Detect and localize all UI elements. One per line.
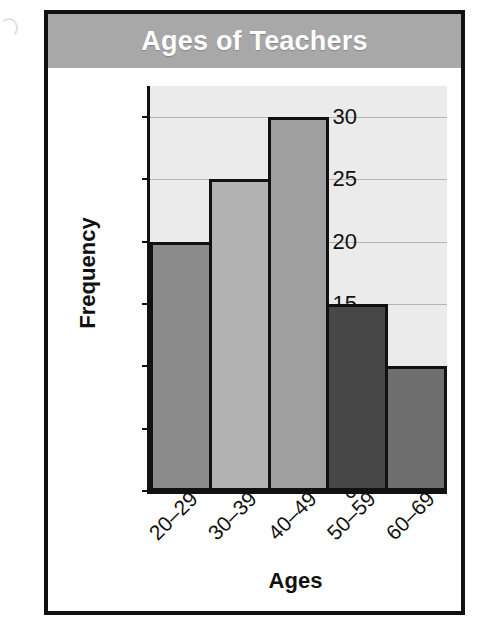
x-axis-tick-slot: 30–39 xyxy=(206,496,265,566)
page-edge-artifact xyxy=(0,18,18,38)
x-axis-title: Ages xyxy=(147,568,444,594)
y-axis-tick xyxy=(142,178,150,180)
x-axis-tick-slot: 40–49 xyxy=(266,496,325,566)
x-axis-tick-slot: 60–69 xyxy=(385,496,444,566)
bar-series xyxy=(150,86,447,491)
y-axis-tick xyxy=(142,365,150,367)
bar xyxy=(268,117,330,491)
plot-area xyxy=(147,86,447,494)
y-axis-tick xyxy=(142,241,150,243)
bar xyxy=(385,366,447,491)
chart-title: Ages of Teachers xyxy=(141,26,367,57)
x-axis-tick-slot: 20–29 xyxy=(147,496,206,566)
x-axis-tick-label: 20–29 xyxy=(144,487,202,545)
y-axis-tick xyxy=(142,116,150,118)
bar xyxy=(326,304,388,491)
y-axis-tick xyxy=(142,428,150,430)
chart-title-bar: Ages of Teachers xyxy=(48,14,461,68)
x-axis-tick-label: 60–69 xyxy=(382,487,440,545)
x-axis-tick-label: 40–49 xyxy=(263,487,321,545)
y-axis-tick xyxy=(142,490,150,492)
x-axis-tick-labels: 20–2930–3940–4950–5960–69 xyxy=(147,496,444,566)
chart-figure: Ages of Teachers Frequency 20–2930–3940–… xyxy=(44,10,465,615)
x-axis-tick-label: 30–39 xyxy=(203,487,261,545)
bar xyxy=(150,242,212,491)
bar xyxy=(209,179,271,491)
y-axis-title: Frequency xyxy=(75,183,101,363)
chart-body: Frequency 20–2930–3940–4950–5960–69 Ages… xyxy=(48,68,461,611)
x-axis-tick-slot: 50–59 xyxy=(325,496,384,566)
y-axis-tick xyxy=(142,303,150,305)
